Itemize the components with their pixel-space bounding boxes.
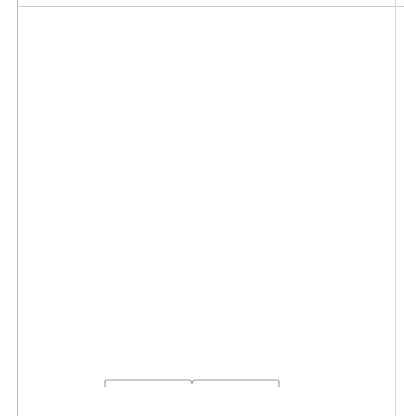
page-frame [0, 0, 404, 416]
page-border-left [17, 0, 18, 416]
page-border-top [17, 6, 404, 7]
plot-area [63, 50, 343, 363]
chart-canvas [63, 50, 343, 363]
great-depression-bracket [104, 379, 280, 388]
page-border-right [395, 0, 396, 416]
